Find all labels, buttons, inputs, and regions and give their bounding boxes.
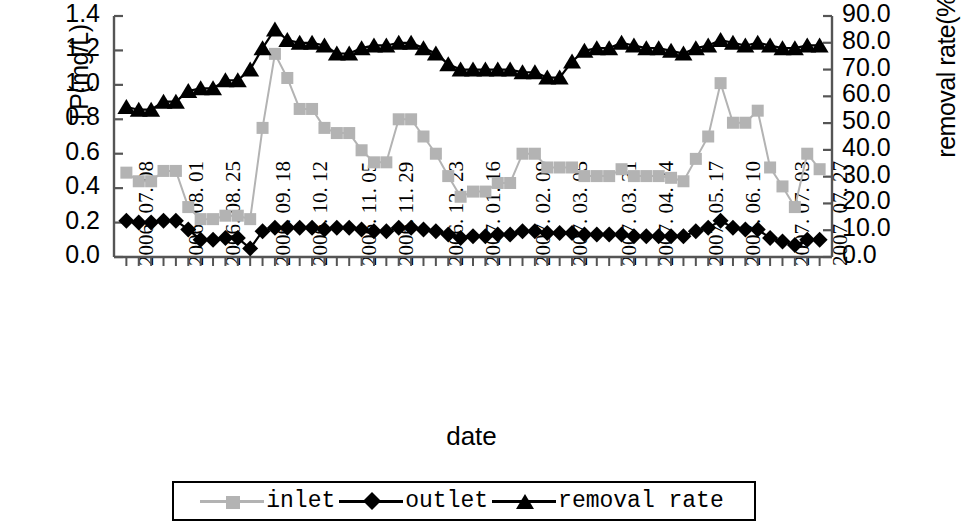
data-point-removal-rate [575,43,593,58]
y-axis-right-tick: 70.0 [842,55,891,80]
data-point-removal-rate [613,35,631,50]
data-point-removal-rate [353,40,371,55]
data-point-removal-rate [699,37,717,52]
data-point-inlet [380,156,392,168]
data-point-removal-rate [414,40,432,55]
data-point-removal-rate [142,102,160,117]
data-point-removal-rate [551,70,569,85]
data-point-removal-rate [340,45,358,60]
data-point-removal-rate [241,62,259,77]
data-point-outlet [428,223,444,239]
data-point-inlet [640,170,652,182]
data-point-removal-rate [439,56,457,71]
x-axis-tick: 2007. 03. 31 [617,161,642,266]
x-axis-tick: 2006. 11. 29 [394,162,419,266]
data-point-removal-rate [476,62,494,77]
y-axis-left-tick: 0.4 [65,173,100,198]
data-point-inlet [677,175,689,187]
data-point-inlet [257,122,269,134]
data-point-inlet [430,148,442,160]
data-point-removal-rate [563,54,581,69]
data-point-outlet [515,223,531,239]
data-point-outlet [168,213,184,229]
data-point-inlet [715,77,727,89]
data-point-removal-rate [167,94,185,109]
data-point-removal-rate [501,62,519,77]
data-point-removal-rate [761,37,779,52]
x-axis-tick: 2006. 08. 25 [221,161,246,266]
x-axis-title: date [0,421,943,452]
data-point-inlet [331,127,343,139]
data-point-outlet [688,223,704,239]
data-point-inlet [776,180,788,192]
data-point-inlet [417,131,429,143]
y-axis-left-tick: 0.6 [65,139,100,164]
data-point-removal-rate [117,99,135,114]
y-axis-left-tick: 1.0 [65,70,100,95]
data-point-removal-rate [464,62,482,77]
data-point-removal-rate [489,62,507,77]
legend-swatch-outlet [339,491,403,511]
data-point-removal-rate [365,37,383,52]
data-point-removal-rate [650,40,668,55]
x-axis-tick: 2006. 08. 01 [184,161,209,266]
data-point-removal-rate [712,32,730,47]
data-point-inlet [814,163,826,175]
data-point-removal-rate [303,35,321,50]
data-point-inlet [727,117,739,129]
y-axis-right-title: removal rate(%) [932,0,961,173]
y-axis-left-tick: 1.4 [65,1,100,26]
legend-swatch-removal-rate [492,491,556,511]
legend-item-outlet[interactable]: outlet [339,488,492,514]
data-point-removal-rate [130,102,148,117]
data-point-removal-rate [291,35,309,50]
data-point-inlet [603,170,615,182]
data-point-outlet [601,227,617,243]
data-point-removal-rate [315,37,333,52]
data-point-removal-rate [266,21,284,36]
data-point-inlet [269,48,281,60]
y-axis-right-tick: 80.0 [842,28,891,53]
data-point-inlet [529,148,541,160]
square-icon [226,495,240,513]
legend-item-inlet[interactable]: inlet [200,488,339,514]
y-axis-right-tick: 50.0 [842,108,891,133]
data-point-removal-rate [254,40,272,55]
legend-item-removal-rate[interactable]: removal rate [492,488,728,514]
data-point-removal-rate [625,37,643,52]
y-axis-right-tick: 90.0 [842,1,891,26]
y-axis-right-tick: 60.0 [842,81,891,106]
data-point-removal-rate [328,45,346,60]
data-point-removal-rate [538,70,556,85]
y-axis-left-tick: 0.8 [65,104,100,129]
triangle-icon [516,494,534,513]
data-point-inlet [356,144,368,156]
data-point-removal-rate [662,43,680,58]
x-axis-tick: 2007. 07. 27 [828,161,853,266]
data-point-removal-rate [377,37,395,52]
data-point-inlet [158,165,170,177]
data-point-removal-rate [637,40,655,55]
legend-label-outlet: outlet [403,488,492,514]
data-point-removal-rate [155,94,173,109]
x-axis-tick: 2007. 02. 09 [531,161,556,266]
x-axis-tick: 2007. 01. 16 [481,161,506,266]
data-point-inlet [702,131,714,143]
data-point-removal-rate [600,40,618,55]
legend-swatch-inlet [200,491,264,511]
x-axis-tick: 2006. 09. 18 [271,161,296,266]
data-point-removal-rate [811,37,829,52]
data-point-removal-rate [724,35,742,50]
x-axis-tick: 2006. 07. 08 [134,161,159,266]
data-point-inlet [405,113,417,125]
data-point-inlet [517,148,529,160]
data-point-removal-rate [773,40,791,55]
x-axis-tick: 2007. 05. 17 [704,161,729,266]
x-axis-tick: 2006. 12. 23 [444,161,469,266]
data-point-inlet [120,167,132,179]
diamond-icon [363,492,381,514]
data-point-inlet [393,113,405,125]
data-point-inlet [739,117,751,129]
data-point-inlet [306,103,318,115]
